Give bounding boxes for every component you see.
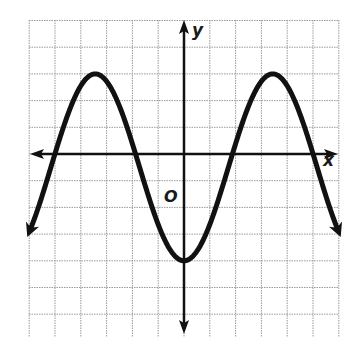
sinusoid-graph: x y O bbox=[0, 0, 351, 337]
axes bbox=[30, 20, 338, 334]
y-axis-label: y bbox=[192, 20, 204, 40]
x-axis-label: x bbox=[322, 150, 335, 170]
origin-label: O bbox=[164, 187, 178, 206]
